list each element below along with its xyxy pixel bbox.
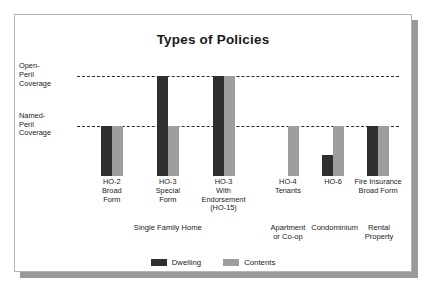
group-label: Rental Property [347, 224, 411, 242]
y-axis-label-named-peril: Named- Peril Coverage [19, 112, 71, 138]
bar-contents[interactable] [112, 126, 123, 176]
bar-dwelling[interactable] [322, 155, 333, 176]
category-labels: HO-2 Broad FormHO-3 Special FormHO-3 Wit… [77, 178, 399, 224]
bar-dwelling[interactable] [157, 76, 168, 176]
bar-dwelling[interactable] [213, 76, 224, 176]
policy-group [308, 59, 358, 176]
policy-group [87, 59, 137, 176]
bar-contents[interactable] [168, 126, 179, 176]
legend-label: Dwelling [172, 258, 201, 267]
group-labels: Single Family HomeApartment or Co-opCond… [77, 224, 399, 254]
plot-area: Open- Peril Coverage Named- Peril Covera… [77, 59, 399, 176]
chart-legend: DwellingContents [15, 258, 411, 267]
bar-contents[interactable] [378, 126, 389, 176]
legend-entry[interactable]: Contents [223, 258, 275, 267]
policy-group [143, 59, 193, 176]
bar-contents[interactable] [288, 126, 299, 176]
legend-swatch-dwelling [151, 259, 167, 266]
chart-figure-panel: Types of Policies Open- Peril Coverage N… [14, 14, 412, 272]
category-label: Fire Insurance Broad Form [333, 178, 423, 196]
chart-title: Types of Policies [15, 32, 411, 47]
policy-group [263, 59, 313, 176]
y-axis-label-open-peril: Open- Peril Coverage [19, 62, 71, 88]
legend-label: Contents [244, 258, 275, 267]
bar-contents[interactable] [333, 126, 344, 176]
category-label: HO-4 Tenants [262, 178, 314, 196]
policy-group [199, 59, 249, 176]
category-label: HO-3 With Endorsement (HO-15) [178, 178, 268, 213]
bar-contents[interactable] [224, 76, 235, 176]
policy-group [353, 59, 403, 176]
bars-layer [77, 59, 399, 176]
group-label: Single Family Home [100, 224, 235, 233]
bar-dwelling[interactable] [101, 126, 112, 176]
category-label: HO-2 Broad Form [86, 178, 138, 204]
legend-swatch-contents [223, 259, 239, 266]
bar-dwelling[interactable] [367, 126, 378, 176]
legend-entry[interactable]: Dwelling [151, 258, 201, 267]
